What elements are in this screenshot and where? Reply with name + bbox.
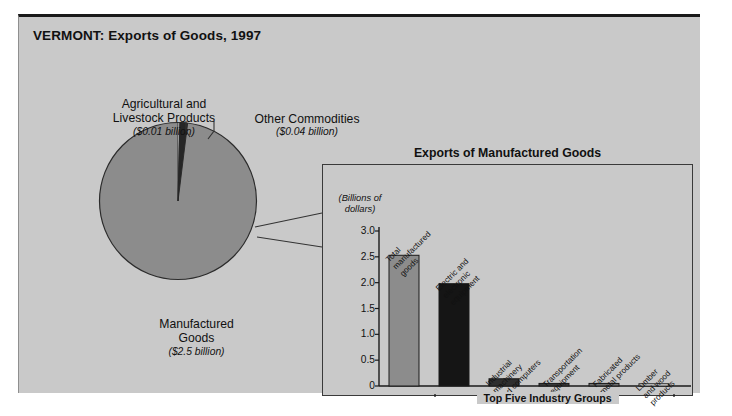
- figure-panel: VERMONT: Exports of Goods, 1997 Agricult…: [18, 14, 700, 393]
- pie-label-manufactured-value: ($2.5 billion): [129, 346, 264, 358]
- pie-label-manufactured: Manufactured Goods ($2.5 billion): [129, 317, 264, 358]
- panel-title: Exports of Manufactured Goods: [322, 146, 693, 160]
- pie-label-agricultural-line2: Livestock Products: [79, 111, 249, 125]
- pie-label-manufactured-line2: Goods: [129, 331, 264, 345]
- pie-label-manufactured-line1: Manufactured: [129, 317, 264, 331]
- bar-chart-panel: (Billions of dollars) 00.51.01.52.02.53.…: [322, 164, 693, 396]
- page-title: VERMONT: Exports of Goods, 1997: [33, 28, 261, 43]
- pie-label-other-line1: Other Commodities: [232, 112, 382, 126]
- pie-label-agricultural: Agricultural and Livestock Products ($0.…: [79, 97, 249, 138]
- pie-label-agricultural-line1: Agricultural and: [79, 97, 249, 111]
- bracket-caption: Top Five Industry Groups: [477, 392, 619, 404]
- pie-label-other-commodities: Other Commodities ($0.04 billion): [232, 112, 382, 139]
- pie-label-agricultural-value: ($0.01 billion): [79, 126, 249, 138]
- pie-label-other-value: ($0.04 billion): [232, 126, 382, 138]
